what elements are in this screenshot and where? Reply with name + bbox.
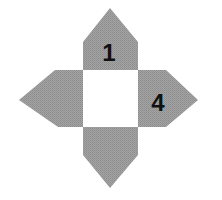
center-square <box>83 70 138 127</box>
flap-right <box>138 70 198 127</box>
label-top-face: 1 <box>102 39 115 66</box>
label-right-face: 4 <box>151 89 165 116</box>
cube-net-diagram: 1 4 <box>0 0 222 200</box>
flap-bottom <box>83 127 138 188</box>
flap-left <box>19 70 83 127</box>
